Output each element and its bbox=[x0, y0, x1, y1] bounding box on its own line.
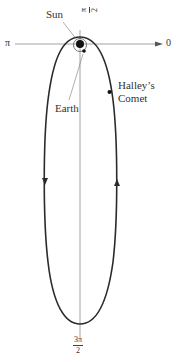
angle-label-0: 0 bbox=[166, 38, 171, 48]
earth-label: Earth bbox=[55, 103, 79, 114]
sun-label: Sun bbox=[46, 9, 63, 20]
comet-label: Halley’s Comet bbox=[118, 80, 155, 104]
sun-leader-line bbox=[63, 22, 77, 40]
orbit-diagram bbox=[0, 0, 184, 362]
comet-orbit bbox=[44, 37, 117, 324]
earth-icon bbox=[82, 49, 86, 53]
comet-icon bbox=[108, 90, 112, 94]
angle-label-pi: π bbox=[5, 38, 10, 48]
orbit-direction-arrow-up-icon bbox=[114, 179, 120, 186]
angle-3pi-over-2-denominator: 2 bbox=[73, 346, 83, 355]
angle-label-pi-over-2: π 2 bbox=[80, 7, 99, 13]
earth-leader-line bbox=[69, 54, 83, 100]
comet-label-line1: Halley’s bbox=[118, 80, 155, 91]
angle-label-3pi-over-2: 3π 2 bbox=[73, 336, 83, 355]
comet-label-line2: Comet bbox=[118, 93, 155, 104]
angle-pi-over-2-numerator: π bbox=[80, 7, 90, 13]
orbit-direction-arrow-down-icon bbox=[42, 178, 48, 185]
axis-arrowhead-icon bbox=[155, 42, 163, 47]
sun-icon bbox=[76, 40, 84, 48]
angle-3pi-over-2-numerator: 3π bbox=[73, 336, 83, 346]
angle-pi-over-2-denominator: 2 bbox=[90, 7, 99, 13]
